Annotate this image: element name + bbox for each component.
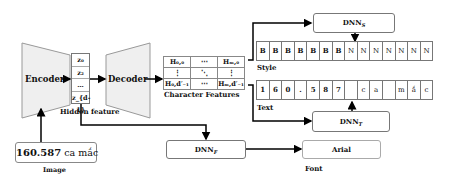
hidden-cell: z₀ xyxy=(72,54,89,67)
dnn-t-label: DNN xyxy=(340,117,359,126)
text-cell: 5 xyxy=(306,80,320,100)
style-cell: B xyxy=(256,41,270,61)
dnn-t-box: DNNT xyxy=(312,111,390,132)
image-number: 160.587 xyxy=(16,147,61,158)
dnn-f-subscript: F xyxy=(214,149,218,155)
dnn-f-label: DNN xyxy=(195,145,214,154)
hidden-feature-caption: Hidden feature xyxy=(60,107,120,116)
dnn-s-subscript: S xyxy=(362,22,366,28)
text-cell: m xyxy=(395,80,409,100)
matrix-cell: ⋱ xyxy=(191,68,218,79)
style-cell: B xyxy=(281,41,295,61)
text-sequence: 1 6 0 . 5 8 7 c a m ắ c xyxy=(257,80,433,100)
hidden-cell: z₂ xyxy=(72,67,89,80)
style-cell: N xyxy=(357,41,371,61)
text-cell: c xyxy=(420,80,434,100)
text-cell xyxy=(382,80,396,100)
dnn-s-box: DNNS xyxy=(313,13,395,33)
matrix-cell: ⋮ xyxy=(164,68,191,79)
dnn-t-subscript: T xyxy=(359,121,363,127)
hidden-feature-vector: z₀ z₂ … z_{d-1} xyxy=(71,53,90,104)
character-features-caption: Character Features xyxy=(164,90,239,99)
style-cell: N xyxy=(407,41,421,61)
text-cell: ắ xyxy=(407,80,421,100)
input-image: 160.587 ca mắc xyxy=(15,142,97,163)
dnn-f-box: DNNF xyxy=(166,140,246,159)
text-caption: Text xyxy=(257,103,273,112)
matrix-cell: ⋯ xyxy=(191,79,218,90)
text-cell: 6 xyxy=(269,80,283,100)
style-cell: N xyxy=(420,41,434,61)
style-cell: B xyxy=(294,41,308,61)
text-cell: 1 xyxy=(256,80,270,100)
style-cell: B xyxy=(306,41,320,61)
text-cell: 7 xyxy=(332,80,346,100)
style-cell: N xyxy=(369,41,383,61)
encoder-label: Encoder xyxy=(25,74,64,84)
text-cell: . xyxy=(294,80,308,100)
text-cell xyxy=(344,80,358,100)
style-cell: N xyxy=(382,41,396,61)
image-caption: Image xyxy=(43,166,66,174)
matrix-cell: Hₘ,d′₋₁ xyxy=(218,79,245,90)
style-sequence: B B B B B B B N N N N N N N xyxy=(257,41,433,61)
style-cell: B xyxy=(332,41,346,61)
text-cell: c xyxy=(357,80,371,100)
font-caption: Font xyxy=(305,164,323,173)
image-words: ca mắc xyxy=(64,147,98,158)
style-cell: N xyxy=(344,41,358,61)
font-output-box: Arial xyxy=(302,140,381,159)
style-caption: Style xyxy=(257,63,276,72)
text-cell: 0 xyxy=(281,80,295,100)
hidden-cell: … xyxy=(72,79,89,92)
dnn-s-label: DNN xyxy=(343,18,362,27)
matrix-cell: ⋯ xyxy=(191,57,218,68)
style-cell: B xyxy=(269,41,283,61)
text-cell: a xyxy=(369,80,383,100)
decoder-label: Decoder xyxy=(108,74,147,84)
style-cell: N xyxy=(395,41,409,61)
hidden-cell: z_{d-1} xyxy=(72,92,89,105)
character-features-matrix: H₀,₀ ⋯ Hₘ,₀ ⋮ ⋱ ⋮ H₀,d′₋₁ ⋯ Hₘ,d′₋₁ xyxy=(163,56,245,90)
matrix-cell: ⋮ xyxy=(218,68,245,79)
font-value: Arial xyxy=(332,145,351,154)
matrix-cell: Hₘ,₀ xyxy=(218,57,245,68)
style-cell: B xyxy=(319,41,333,61)
matrix-cell: H₀,₀ xyxy=(164,57,191,68)
matrix-cell: H₀,d′₋₁ xyxy=(164,79,191,90)
text-cell: 8 xyxy=(319,80,333,100)
